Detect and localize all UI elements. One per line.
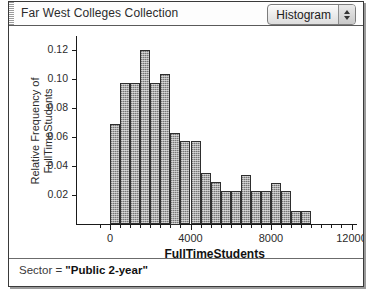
x-axis-minor-tick (251, 225, 252, 228)
histogram-bar[interactable] (160, 74, 170, 224)
histogram-bar[interactable] (221, 191, 231, 224)
status-bar: Sector = "Public 2-year" (9, 258, 363, 286)
x-axis-tick-label: 12000 (329, 232, 364, 244)
x-axis-title: FullTimeStudents (125, 247, 305, 258)
y-axis-tick (72, 79, 76, 80)
y-axis-tick (72, 166, 76, 167)
histogram-bar[interactable] (201, 173, 211, 224)
histogram-bar[interactable] (130, 83, 140, 224)
x-axis-minor-tick (261, 225, 262, 228)
x-axis-minor-tick (321, 225, 322, 228)
histogram-window: Far West Colleges Collection Histogram 0… (8, 1, 364, 287)
plot-type-stepper[interactable] (338, 5, 355, 24)
x-axis-tick-label: 8000 (248, 232, 294, 244)
y-axis-title: Relative Frequency of FullTimeStudents (29, 51, 54, 211)
x-axis-minor-tick (160, 225, 161, 228)
plot-type-label: Histogram (268, 5, 338, 24)
histogram-bar[interactable] (150, 83, 160, 224)
y-axis-tick (72, 195, 76, 196)
filter-status-value: "Public 2-year" (65, 264, 148, 276)
y-axis-tick (72, 137, 76, 138)
histogram-bar[interactable] (251, 191, 261, 224)
x-axis-minor-tick (231, 225, 232, 228)
histogram-bar[interactable] (291, 211, 301, 224)
x-axis-minor-tick (140, 225, 141, 228)
histogram-bar[interactable] (271, 183, 281, 224)
x-axis-minor-tick (331, 225, 332, 228)
triangle-down-icon[interactable] (344, 16, 350, 20)
x-axis-major-tick (191, 225, 192, 230)
x-axis-minor-tick (291, 225, 292, 228)
x-axis-tick-label: 0 (87, 232, 133, 244)
filter-status-prefix: Sector = (19, 264, 65, 276)
x-axis-minor-tick (281, 225, 282, 228)
histogram-bar[interactable] (170, 133, 180, 225)
histogram-bar[interactable] (140, 50, 150, 224)
x-axis-minor-tick (241, 225, 242, 228)
x-axis-minor-tick (180, 225, 181, 228)
x-axis-major-tick (352, 225, 353, 230)
histogram-bar[interactable] (211, 182, 221, 224)
x-axis-minor-tick (211, 225, 212, 228)
x-axis-minor-tick (170, 225, 171, 228)
x-axis-major-tick (271, 225, 272, 230)
histogram-bar[interactable] (120, 83, 130, 224)
histogram-bar[interactable] (261, 191, 271, 224)
x-axis-minor-tick (201, 225, 202, 228)
window-titlebar: Far West Colleges Collection Histogram (9, 2, 363, 26)
x-axis-line (76, 224, 357, 225)
histogram-bar[interactable] (241, 175, 251, 224)
y-axis-tick (72, 108, 76, 109)
x-axis-minor-tick (120, 225, 121, 228)
histogram-chart: 0.020.040.060.080.100.120.14040008000120… (9, 26, 363, 258)
histogram-bar[interactable] (110, 124, 120, 224)
triangle-up-icon[interactable] (344, 10, 350, 14)
collection-title: Far West Colleges Collection (21, 6, 178, 20)
y-axis-tick (72, 50, 76, 51)
x-axis-major-tick (110, 225, 111, 230)
x-axis-minor-tick (150, 225, 151, 228)
drag-grip-icon[interactable] (9, 2, 14, 25)
x-axis-minor-tick (311, 225, 312, 228)
plot-area[interactable]: 0.020.040.060.080.100.120.14040008000120… (9, 26, 363, 258)
histogram-bar[interactable] (301, 211, 311, 224)
histogram-bar[interactable] (191, 141, 201, 224)
x-axis-minor-tick (341, 225, 342, 228)
x-axis-tick-label: 4000 (168, 232, 214, 244)
y-axis-line (76, 36, 77, 224)
x-axis-minor-tick (130, 225, 131, 228)
histogram-bar[interactable] (281, 191, 291, 224)
histogram-bar[interactable] (180, 141, 190, 224)
plot-type-dropdown[interactable]: Histogram (267, 4, 356, 25)
filter-status-text: Sector = "Public 2-year" (19, 264, 148, 276)
x-axis-minor-tick (301, 225, 302, 228)
x-axis-minor-tick (221, 225, 222, 228)
x-axis-minor-tick (100, 225, 101, 228)
histogram-bar[interactable] (231, 191, 241, 224)
